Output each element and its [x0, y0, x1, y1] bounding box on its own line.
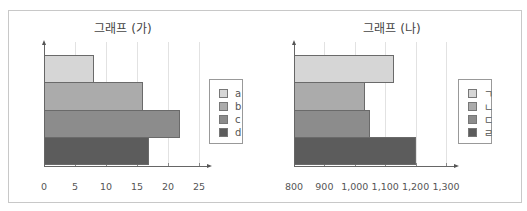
legend-item: d — [219, 126, 241, 138]
legend-swatch-icon — [219, 128, 228, 137]
x-tick-label: 0 — [41, 181, 47, 192]
gridline — [416, 42, 417, 166]
legend-item: c — [219, 113, 241, 125]
legend-item: ㄴ — [468, 100, 493, 112]
chart-title: 그래프 (나) — [363, 19, 420, 36]
bar-a — [44, 55, 94, 83]
x-tick-label: 1,300 — [432, 181, 459, 192]
x-tick-label: 1,100 — [372, 181, 399, 192]
legend-swatch-icon — [468, 128, 477, 137]
x-tick-label: 800 — [285, 181, 303, 192]
y-axis — [294, 44, 295, 166]
legend-label: a — [235, 88, 241, 99]
legend-swatch-icon — [468, 115, 477, 124]
x-tick-label: 15 — [131, 181, 143, 192]
legend-item: ㄷ — [468, 113, 493, 125]
y-axis-arrow-icon — [42, 40, 46, 45]
bar-ㄷ — [294, 110, 370, 138]
legend-item: b — [219, 100, 241, 112]
bar-ㄴ — [294, 82, 365, 110]
x-tick-label: 25 — [193, 181, 205, 192]
legend-item: a — [219, 87, 241, 99]
legend: ㄱㄴㄷㄹ — [458, 79, 492, 144]
bar-d — [44, 137, 149, 165]
legend-label: c — [235, 114, 241, 125]
bar-b — [44, 82, 143, 110]
x-tick-label: 1,200 — [402, 181, 429, 192]
legend-item: ㄱ — [468, 87, 493, 99]
x-axis-arrow-icon — [207, 164, 212, 168]
legend-swatch-icon — [468, 102, 477, 111]
legend-label: b — [235, 101, 241, 112]
legend: abcd — [209, 79, 243, 144]
legend-swatch-icon — [219, 102, 228, 111]
x-tick-label: 900 — [315, 181, 333, 192]
x-axis — [294, 166, 454, 167]
bar-ㄱ — [294, 55, 394, 83]
legend-label: d — [235, 127, 241, 138]
y-axis-arrow-icon — [292, 40, 296, 45]
y-axis — [44, 44, 45, 166]
legend-swatch-icon — [468, 89, 477, 98]
x-tick-label: 10 — [100, 181, 112, 192]
legend-label: ㄹ — [484, 125, 493, 140]
gridline — [168, 42, 169, 166]
gridline — [446, 42, 447, 166]
x-tick-label: 5 — [72, 181, 78, 192]
gridline — [199, 42, 200, 166]
x-tick-label: 1,000 — [341, 181, 368, 192]
legend-swatch-icon — [219, 89, 228, 98]
bar-c — [44, 110, 180, 138]
chart-title: 그래프 (가) — [94, 19, 151, 36]
x-tick-label: 20 — [162, 181, 174, 192]
legend-item: ㄹ — [468, 126, 493, 138]
legend-swatch-icon — [219, 115, 228, 124]
bar-ㄹ — [294, 137, 416, 165]
x-axis-arrow-icon — [454, 164, 459, 168]
x-axis — [44, 166, 207, 167]
